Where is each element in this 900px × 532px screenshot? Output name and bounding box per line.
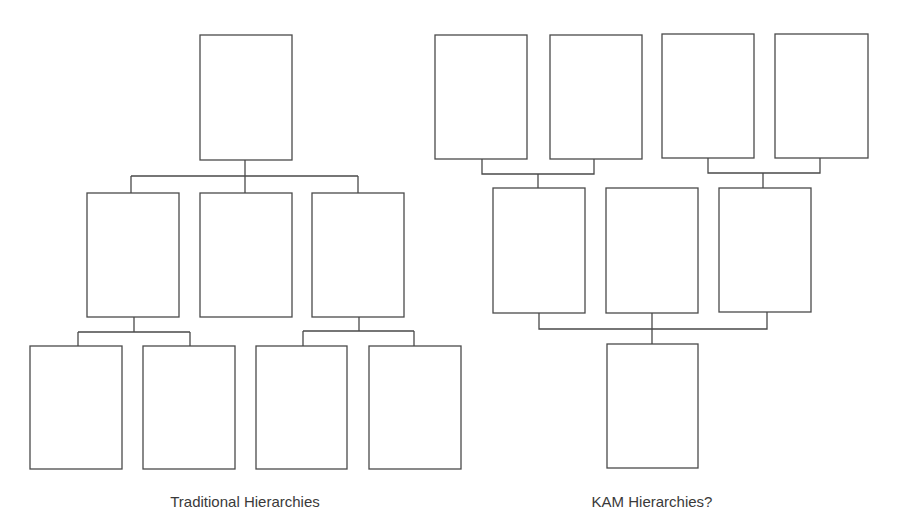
kam-box-top-2 bbox=[550, 35, 642, 159]
org-box-top bbox=[200, 35, 292, 160]
kam-box-top-3 bbox=[662, 34, 754, 158]
org-box-bottom-4 bbox=[369, 346, 461, 469]
kam-box-bottom bbox=[607, 344, 698, 468]
caption-traditional-hierarchies: Traditional Hierarchies bbox=[170, 493, 320, 510]
connector-lines bbox=[303, 317, 414, 346]
caption-kam-hierarchies: KAM Hierarchies? bbox=[592, 493, 713, 510]
connector-lines bbox=[482, 159, 594, 188]
org-box-middle-3 bbox=[312, 193, 404, 317]
connector-lines bbox=[539, 312, 767, 344]
kam-box-middle-1 bbox=[493, 188, 585, 313]
org-box-bottom-2 bbox=[143, 346, 235, 469]
org-box-bottom-3 bbox=[256, 346, 347, 469]
kam-box-middle-2 bbox=[606, 188, 698, 313]
org-box-bottom-1 bbox=[30, 346, 122, 469]
org-box-middle-1 bbox=[87, 193, 179, 317]
traditional-hierarchy bbox=[30, 35, 461, 469]
org-box-middle-2 bbox=[200, 193, 292, 317]
kam-box-middle-3 bbox=[719, 188, 811, 312]
connector-lines bbox=[708, 158, 820, 188]
kam-hierarchy bbox=[435, 34, 868, 468]
connector-lines bbox=[78, 317, 190, 346]
kam-box-top-4 bbox=[775, 34, 868, 158]
connector-lines bbox=[131, 160, 358, 193]
hierarchy-diagrams bbox=[0, 0, 900, 532]
kam-box-top-1 bbox=[435, 35, 527, 159]
